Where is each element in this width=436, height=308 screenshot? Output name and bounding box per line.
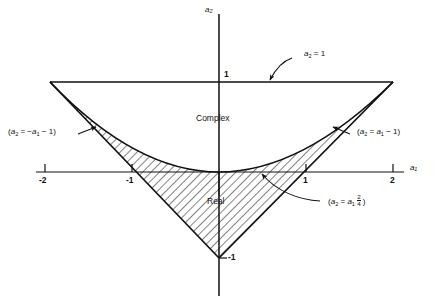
arrow-to-a2-equals-1 bbox=[270, 58, 292, 80]
complex-region-text: Complex bbox=[196, 113, 230, 123]
x-axis-label-text: a₁ bbox=[410, 163, 417, 172]
real-region-shading bbox=[50, 82, 393, 258]
real-region-text: Real bbox=[207, 196, 224, 206]
x-tick-pos1-text: 1 bbox=[303, 175, 308, 185]
arrow-to-left-line bbox=[78, 127, 96, 134]
x-tick-label-neg1: -1 bbox=[126, 176, 134, 185]
boundary-parabola bbox=[50, 82, 393, 172]
y-tick-neg1-text: -1 bbox=[228, 252, 236, 262]
x-tick-label-pos1: 1 bbox=[303, 176, 308, 185]
y-tick-label-pos1: 1 bbox=[224, 70, 229, 79]
annotation-right-boundary: (a2 = a1 − 1) bbox=[357, 128, 400, 137]
annotation-a2-equals-1: a2 = 1 bbox=[304, 50, 325, 59]
y-axis-label: a₂ bbox=[205, 6, 213, 14]
y-tick-pos1-text: 1 bbox=[224, 69, 229, 79]
complex-region-label: Complex bbox=[196, 114, 230, 123]
parameter-plane-diagram bbox=[0, 0, 436, 308]
x-axis-label: a₁ bbox=[410, 164, 417, 172]
annotation-parabola: (a2 = a1 24 ) bbox=[328, 194, 366, 208]
y-tick-label-neg1: -1 bbox=[228, 253, 236, 262]
annotation-left-boundary: (a2 = −a1 − 1) bbox=[8, 128, 56, 137]
x-tick-pos2-text: 2 bbox=[390, 175, 395, 185]
x-tick-neg2-text: -2 bbox=[39, 175, 47, 185]
x-tick-neg1-text: -1 bbox=[126, 175, 134, 185]
y-axis-label-text: a₂ bbox=[205, 5, 213, 14]
x-tick-label-neg2: -2 bbox=[39, 176, 47, 185]
real-region-label: Real bbox=[207, 197, 224, 206]
x-tick-label-pos2: 2 bbox=[390, 176, 395, 185]
